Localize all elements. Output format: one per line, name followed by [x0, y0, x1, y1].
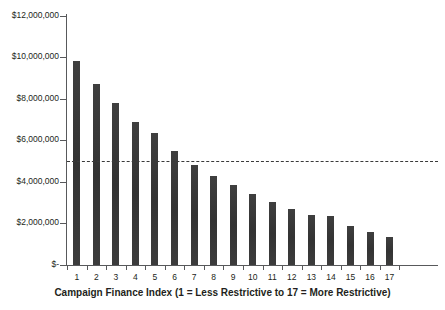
bar	[112, 103, 119, 265]
bar	[249, 194, 256, 265]
x-axis-tick-mark	[204, 266, 205, 270]
bar	[230, 185, 237, 265]
bar	[288, 209, 295, 265]
x-axis-tick-label: 16	[360, 272, 380, 282]
x-axis-tick-mark	[243, 266, 244, 270]
y-axis-tick-label: $12,000,000	[1, 11, 59, 20]
x-axis-line	[66, 265, 438, 266]
bar	[151, 133, 158, 265]
y-axis-tick-label: $2,000,000	[1, 218, 59, 227]
bar	[191, 165, 198, 265]
x-axis-tick-mark	[145, 266, 146, 270]
x-axis-tick-mark	[87, 266, 88, 270]
bar	[308, 215, 315, 265]
x-axis-tick-label: 14	[321, 272, 341, 282]
x-axis-tick-mark	[184, 266, 185, 270]
x-axis-tick-label: 2	[86, 272, 106, 282]
x-axis-tick-mark	[165, 266, 166, 270]
x-axis-tick-label: 10	[243, 272, 263, 282]
y-axis-label-group: $12,000,000 $10,000,000 $8,000,000 $6,00…	[0, 0, 59, 310]
reference-line	[67, 161, 438, 162]
x-axis-tick-label: 7	[184, 272, 204, 282]
x-axis-tick-label: 5	[145, 272, 165, 282]
x-axis-tick-label: 4	[125, 272, 145, 282]
x-axis-tick-mark	[282, 266, 283, 270]
bar	[367, 232, 374, 265]
x-axis-tick-mark	[380, 266, 381, 270]
x-axis-title: Campaign Finance Index (1 = Less Restric…	[0, 286, 445, 299]
y-axis-tick-label: $4,000,000	[1, 177, 59, 186]
x-axis-tick-label: 15	[340, 272, 360, 282]
x-axis-tick-label: 12	[282, 272, 302, 282]
bar	[210, 176, 217, 265]
x-axis-tick-mark	[341, 266, 342, 270]
y-axis-tick-label: $6,000,000	[1, 135, 59, 144]
x-axis-tick-mark	[302, 266, 303, 270]
x-axis-tick-label: 9	[223, 272, 243, 282]
bar	[347, 226, 354, 265]
x-axis-tick-mark	[126, 266, 127, 270]
x-axis-tick-mark	[223, 266, 224, 270]
x-axis-tick-label: 17	[380, 272, 400, 282]
bar	[269, 202, 276, 265]
y-axis-tick-label: $10,000,000	[1, 52, 59, 61]
x-axis-tick-label: 6	[165, 272, 185, 282]
y-axis-tick-label: $8,000,000	[1, 94, 59, 103]
bar	[132, 122, 139, 265]
x-axis-tick-label: 8	[204, 272, 224, 282]
bar-chart-figure: $12,000,000 $10,000,000 $8,000,000 $6,00…	[0, 0, 445, 310]
x-axis-tick-mark	[106, 266, 107, 270]
bar	[73, 61, 80, 265]
x-axis-tick-mark	[399, 266, 400, 270]
x-axis-tick-label: 1	[67, 272, 87, 282]
bar	[93, 84, 100, 265]
bar	[327, 216, 334, 265]
x-axis-tick-mark	[321, 266, 322, 270]
x-axis-tick-mark	[360, 266, 361, 270]
y-axis-tick-label: $-	[1, 260, 59, 269]
y-axis-line	[66, 14, 67, 266]
x-axis-tick-label: 13	[301, 272, 321, 282]
bar	[386, 237, 393, 265]
x-axis-tick-mark	[263, 266, 264, 270]
x-axis-tick-label: 3	[106, 272, 126, 282]
x-axis-tick-label: 11	[262, 272, 282, 282]
x-axis-tick-mark	[67, 266, 68, 270]
bar	[171, 151, 178, 265]
